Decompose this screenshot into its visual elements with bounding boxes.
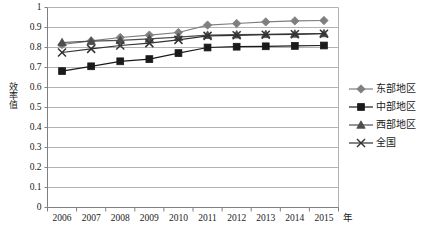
data-point-marker	[357, 85, 365, 93]
data-point-marker	[203, 21, 211, 29]
legend-item-1[interactable]: 东部地区	[348, 82, 416, 96]
y-axis-tick-label: 0.2	[18, 162, 42, 172]
data-point-marker	[291, 43, 298, 50]
y-axis-tick-label: 0.7	[18, 62, 42, 72]
data-point-marker	[88, 63, 95, 70]
legend-triangle-icon	[348, 119, 374, 131]
series-1	[58, 16, 328, 48]
y-axis-tick-label: 0.1	[18, 182, 42, 192]
data-point-marker	[291, 17, 299, 25]
y-axis-tick-label: 1	[18, 2, 42, 12]
chart-legend: 东部地区中部地区西部地区全国	[348, 82, 416, 150]
y-axis-tick-label: 0.3	[18, 142, 42, 152]
data-point-marker	[320, 16, 328, 24]
y-axis-tick-label: 0	[18, 202, 42, 212]
data-point-marker	[117, 58, 124, 65]
data-point-marker	[175, 50, 182, 57]
legend-item-label: 西部地区	[376, 119, 416, 131]
y-axis-tick-label: 0.5	[18, 102, 42, 112]
legend-diamond-icon	[348, 83, 374, 95]
legend-item-3[interactable]: 西部地区	[348, 118, 416, 132]
line-chart: 效率值 00.10.20.30.40.50.60.70.80.91 200620…	[0, 0, 433, 248]
legend-item-label: 中部地区	[376, 101, 416, 113]
legend-item-label: 全国	[376, 137, 396, 149]
data-point-marker	[59, 68, 66, 75]
data-point-marker	[321, 42, 328, 49]
data-point-marker	[204, 44, 211, 51]
x-axis-tick-label: 2015	[307, 213, 341, 224]
data-point-marker	[146, 56, 153, 63]
data-point-marker	[358, 104, 365, 111]
legend-item-4[interactable]: 全国	[348, 136, 416, 150]
series-2	[59, 42, 328, 74]
x-axis-unit-label: 年	[343, 213, 353, 224]
legend-cross-icon	[348, 137, 374, 149]
data-point-marker	[232, 19, 240, 27]
data-point-marker	[262, 18, 270, 26]
data-point-marker	[262, 43, 269, 50]
data-point-marker	[233, 43, 240, 50]
y-axis-tick-label: 0.6	[18, 82, 42, 92]
legend-square-icon	[348, 101, 374, 113]
y-axis-tick-label: 0.9	[18, 22, 42, 32]
y-axis-tick-label: 0.8	[18, 42, 42, 52]
y-axis-tick-label: 0.4	[18, 122, 42, 132]
legend-item-2[interactable]: 中部地区	[348, 100, 416, 114]
legend-item-label: 东部地区	[376, 83, 416, 95]
